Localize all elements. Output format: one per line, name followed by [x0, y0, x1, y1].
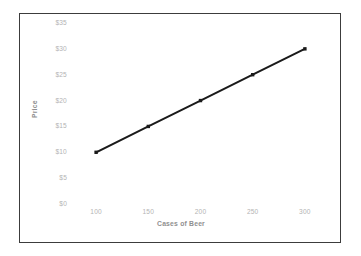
x-axis-tick-labels: 100150200250300 — [20, 14, 342, 244]
y-axis-title: Price — [31, 100, 38, 118]
x-axis-tick-label: 150 — [128, 208, 168, 215]
plot-area: $0$5$10$15$20$25$30$35 100150200250300 P… — [20, 14, 340, 242]
x-axis-tick-label: 300 — [285, 208, 325, 215]
chart-frame: $0$5$10$15$20$25$30$35 100150200250300 P… — [19, 13, 341, 243]
x-axis-title: Cases of Beer — [20, 220, 342, 227]
x-axis-tick-label: 200 — [181, 208, 221, 215]
chart-figure: $0$5$10$15$20$25$30$35 100150200250300 P… — [0, 0, 361, 256]
x-axis-tick-label: 250 — [233, 208, 273, 215]
x-axis-tick-label: 100 — [76, 208, 116, 215]
